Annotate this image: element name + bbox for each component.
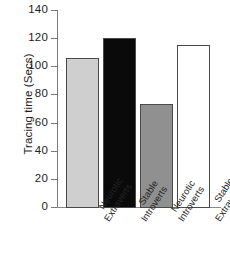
plot-area <box>0 0 230 266</box>
bar <box>66 58 99 208</box>
bar-chart-figure: 140120100806040200 Tracing time (Secs) N… <box>0 0 230 266</box>
